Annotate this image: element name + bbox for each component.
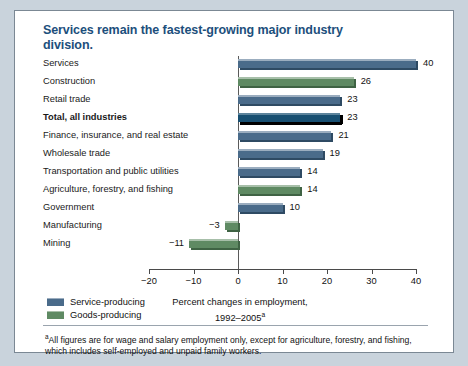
x-axis-title-line1: Percent changes in employment,: [172, 297, 307, 307]
bar: [238, 149, 323, 158]
bar: [238, 95, 340, 104]
value-label: 26: [361, 76, 371, 86]
chart-row: Transportation and public utilities14: [15, 164, 455, 182]
x-tick: [416, 269, 417, 274]
plot-area: Services40Construction26Retail trade23To…: [15, 11, 455, 354]
footnote-divider: [43, 325, 428, 326]
bar: [238, 59, 416, 68]
bar-rows: Services40Construction26Retail trade23To…: [15, 56, 455, 254]
chart-panel: Services remain the fastest-growing majo…: [14, 10, 454, 353]
bar: [238, 185, 300, 194]
chart-row: Finance, insurance, and real estate21: [15, 128, 455, 146]
x-tick: [327, 269, 328, 274]
chart-row: Government10: [15, 200, 455, 218]
x-tick-label: 30: [366, 276, 376, 286]
bar: [238, 131, 331, 140]
value-label: 19: [330, 148, 340, 158]
x-tick-label: −20: [141, 276, 157, 286]
bar-container: 23: [15, 92, 455, 110]
value-label: −11: [164, 238, 184, 248]
chart-row: Manufacturing−3: [15, 218, 455, 236]
x-axis-title-line2: 1992–2005: [215, 313, 262, 323]
chart-legend: Service-producing Goods-producing: [47, 295, 145, 321]
bar: [189, 239, 238, 248]
legend-item-goods: Goods-producing: [47, 308, 145, 321]
x-tick: [283, 269, 284, 274]
value-label: 23: [347, 112, 357, 122]
bar-container: 14: [15, 164, 455, 182]
x-tick-label: 20: [322, 276, 332, 286]
value-label: 14: [307, 184, 317, 194]
x-axis-title-footnote-marker: a: [261, 311, 265, 318]
legend-swatch-goods: [47, 311, 64, 319]
chart-row: Services40: [15, 56, 455, 74]
x-tick-label: 10: [277, 276, 287, 286]
value-label: 21: [338, 130, 348, 140]
bar-container: 21: [15, 128, 455, 146]
value-label: 40: [423, 58, 433, 68]
bar-container: 40: [15, 56, 455, 74]
bar-container: 19: [15, 146, 455, 164]
x-tick: [149, 269, 150, 274]
x-tick: [372, 269, 373, 274]
bar-container: 10: [15, 200, 455, 218]
bar-container: −11: [15, 236, 455, 254]
x-tick-label: 0: [235, 276, 240, 286]
bar: [238, 113, 340, 122]
page-background: Services remain the fastest-growing majo…: [0, 0, 468, 366]
bar-container: 23: [15, 110, 455, 128]
bar: [238, 203, 283, 212]
bar: [225, 221, 238, 230]
footnote: aAll figures are for wage and salary emp…: [45, 331, 435, 358]
chart-row: Mining−11: [15, 236, 455, 254]
chart-row: Retail trade23: [15, 92, 455, 110]
x-axis-title: Percent changes in employment, 1992–2005…: [165, 296, 315, 324]
x-tick: [238, 269, 239, 274]
bar-container: −3: [15, 218, 455, 236]
legend-swatch-service: [47, 298, 64, 306]
value-label: 23: [347, 94, 357, 104]
bar-container: 26: [15, 74, 455, 92]
legend-label-goods: Goods-producing: [70, 310, 141, 320]
chart-row: Total, all industries23: [15, 110, 455, 128]
chart-row: Wholesale trade19: [15, 146, 455, 164]
value-label: 14: [307, 166, 317, 176]
footnote-text: All figures are for wage and salary empl…: [45, 335, 412, 357]
value-label: −3: [200, 220, 220, 230]
value-label: 10: [290, 202, 300, 212]
bar: [238, 167, 300, 176]
legend-item-service: Service-producing: [47, 295, 145, 308]
bar: [238, 77, 354, 86]
chart-row: Agriculture, forestry, and fishing14: [15, 182, 455, 200]
x-tick-label: −10: [186, 276, 202, 286]
x-tick-label: 40: [411, 276, 421, 286]
bar-container: 14: [15, 182, 455, 200]
x-tick: [194, 269, 195, 274]
chart-row: Construction26: [15, 74, 455, 92]
legend-label-service: Service-producing: [70, 297, 145, 307]
